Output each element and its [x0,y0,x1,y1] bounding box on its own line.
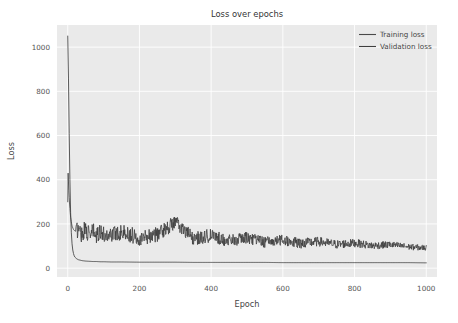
x-axis-title: Epoch [234,299,259,309]
x-tick-label: 200 [133,284,147,293]
y-tick-label: 0 [45,264,50,273]
x-tick-label: 800 [348,284,362,293]
y-tick-label: 200 [36,220,50,229]
y-tick-label: 600 [36,131,50,140]
loss-over-epochs-chart: 02004006008001000 02004006008001000 Loss… [0,0,458,323]
legend-label-validation-loss: Validation loss [380,42,432,51]
legend-label-training-loss: Training loss [379,30,425,39]
x-tick-label: 1000 [417,284,436,293]
x-tick-label: 600 [276,284,290,293]
x-tick-label: 0 [65,284,70,293]
x-tick-label: 400 [204,284,218,293]
figure-canvas: 02004006008001000 02004006008001000 Loss… [0,0,458,323]
y-tick-label: 1000 [32,43,51,52]
chart-title: Loss over epochs [211,9,283,19]
y-axis-title: Loss [6,142,16,160]
y-tick-label: 800 [36,87,50,96]
y-tick-label: 400 [36,175,50,184]
